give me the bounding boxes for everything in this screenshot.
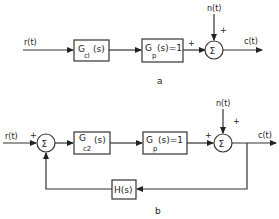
controller-label-arg-a: (s): [93, 44, 105, 54]
diagram-a: r(t) G cl (s) G p (s)=1 + Σ n(t) + c(t) …: [23, 4, 262, 86]
feedback-block-b: H(s): [112, 180, 136, 199]
controller-block-b: G c2 (s): [74, 132, 110, 154]
controller-label-sub-a: cl: [84, 52, 90, 60]
feedback-line-to-summer-b: [46, 153, 112, 189]
plant-label-main-a: G: [145, 43, 152, 53]
caption-b: b: [155, 206, 161, 216]
caption-a: a: [157, 76, 163, 86]
diagram-b: r(t) + Σ G c2 (s) G p (s)=1 + Σ n(t) +: [3, 99, 276, 216]
summing-junction-a: Σ: [205, 41, 223, 59]
summer-input-sign-reference-b: +: [30, 131, 37, 140]
plant-block-b: G p (s)=1: [143, 132, 187, 154]
summer-sign-disturbance-a: +: [220, 26, 227, 35]
summer-sign-forward-a: +: [188, 39, 195, 48]
summing-junction-output-b: Σ: [214, 134, 232, 152]
input-signal-label-b: r(t): [5, 132, 18, 141]
summer-output-symbol-b: Σ: [219, 139, 225, 149]
summer-output-sign-disturbance-b: +: [233, 117, 240, 126]
summer-symbol-a: Σ: [210, 46, 216, 56]
plant-label-sub-b: p: [153, 145, 158, 153]
plant-block-a: G p (s)=1: [142, 39, 183, 62]
controller-label-main-b: G: [79, 133, 86, 143]
output-signal-label-b: c(t): [258, 131, 272, 140]
plant-label-main-b: G: [146, 135, 153, 145]
summer-output-sign-forward-b: +: [205, 131, 212, 140]
feedback-label-b: H(s): [114, 185, 132, 195]
controller-label-arg-b: (s): [94, 135, 106, 145]
input-signal-label-a: r(t): [24, 38, 37, 47]
disturbance-label-b: n(t): [216, 99, 230, 108]
output-signal-label-a: c(t): [244, 37, 258, 46]
plant-label-arg-b: (s)=1: [158, 135, 183, 145]
plant-label-sub-a: p: [152, 52, 157, 60]
disturbance-label-a: n(t): [207, 4, 221, 13]
summer-input-symbol-b: Σ: [42, 139, 48, 149]
controller-label-sub-b: c2: [83, 145, 91, 153]
summing-junction-input-b: Σ: [37, 134, 55, 152]
block-diagram-canvas: r(t) G cl (s) G p (s)=1 + Σ n(t) + c(t) …: [0, 0, 279, 219]
controller-block-a: G cl (s): [74, 40, 109, 61]
plant-label-arg-a: (s)=1: [157, 43, 182, 53]
